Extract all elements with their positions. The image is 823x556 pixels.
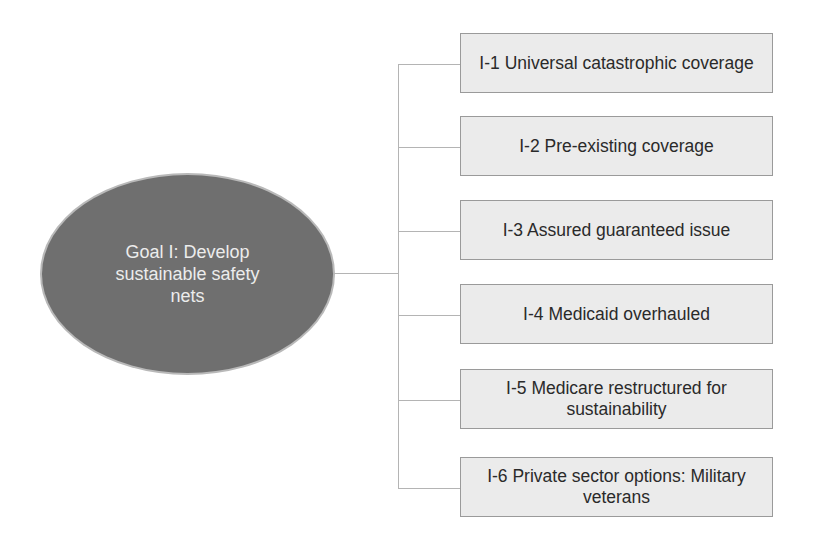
objective-box-i1: I-1 Universal catastrophic coverage xyxy=(460,33,773,93)
branch-connector-2 xyxy=(398,147,460,148)
objective-box-i6: I-6 Private sector options: Military vet… xyxy=(460,457,773,517)
goal-node: Goal I: Develop sustainable safety nets xyxy=(42,175,333,373)
goal-connector xyxy=(333,273,398,274)
objective-label: I-3 Assured guaranteed issue xyxy=(493,220,741,241)
branch-connector-5 xyxy=(398,400,460,401)
branch-connector-4 xyxy=(398,315,460,316)
objective-box-i5: I-5 Medicare restructured for sustainabi… xyxy=(460,369,773,429)
branch-connector-6 xyxy=(398,488,460,489)
trunk-connector xyxy=(398,64,399,489)
objective-label: I-6 Private sector options: Military vet… xyxy=(461,466,772,508)
objective-box-i3: I-3 Assured guaranteed issue xyxy=(460,200,773,260)
objective-label: I-5 Medicare restructured for sustainabi… xyxy=(461,378,772,420)
objective-label: I-1 Universal catastrophic coverage xyxy=(469,53,763,74)
objective-box-i4: I-4 Medicaid overhauled xyxy=(460,284,773,344)
objective-label: I-2 Pre-existing coverage xyxy=(509,136,724,157)
goal-label: Goal I: Develop sustainable safety nets xyxy=(113,241,263,307)
branch-connector-3 xyxy=(398,231,460,232)
branch-connector-1 xyxy=(398,64,460,65)
objective-box-i2: I-2 Pre-existing coverage xyxy=(460,116,773,176)
objective-label: I-4 Medicaid overhauled xyxy=(513,304,720,325)
